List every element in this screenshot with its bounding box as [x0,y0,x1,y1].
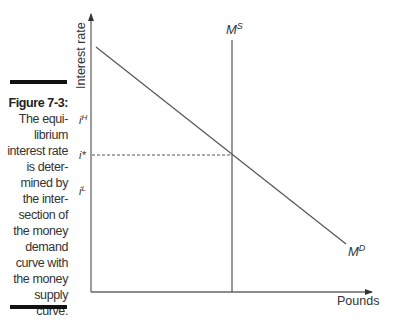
money-demand-label: MD [348,243,366,259]
money-demand-curve [96,47,346,244]
money-market-diagram: Interest rate Pounds MS MD iH i* iL [0,0,396,326]
tick-label-low: iL [79,184,86,197]
x-axis-label: Pounds [337,294,379,308]
money-supply-label: MS [226,21,243,37]
tick-label-high: iH [79,113,87,126]
y-axis-label: Interest rate [74,22,88,89]
tick-label-equilibrium: i* [79,149,86,161]
